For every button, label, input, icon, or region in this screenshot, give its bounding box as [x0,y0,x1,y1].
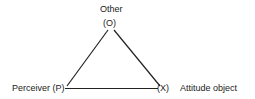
node-p-label: Perceiver (P) [12,83,65,93]
edge-o-x [114,30,160,86]
node-o-title: Other [100,4,123,14]
edge-o-p [67,30,108,86]
node-x-description: Attitude object [180,83,237,93]
node-x-label: (X) [157,83,169,93]
node-o-label: (O) [103,18,116,28]
